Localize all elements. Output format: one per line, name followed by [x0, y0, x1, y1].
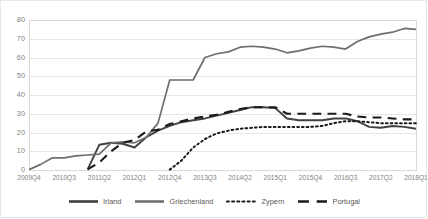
- y-axis-tick-label: 40: [1, 91, 25, 99]
- x-axis-tick-label: 2010Q3: [52, 173, 75, 182]
- legend-label: Griechenland: [169, 197, 213, 206]
- legend-label: Irland: [103, 197, 122, 206]
- y-axis-tick-label: 60: [1, 54, 25, 62]
- x-axis-tick-label: 2017Q2: [369, 173, 392, 182]
- legend-swatch-irland: [68, 197, 99, 206]
- y-axis-tick-label: 50: [1, 72, 25, 80]
- legend-item-griechenland[interactable]: Griechenland: [134, 197, 213, 206]
- x-axis-tick-label: 2018Q1: [404, 173, 427, 182]
- axis-line-baseline: [29, 170, 417, 171]
- x-axis-tick-label: 2012Q1: [123, 173, 146, 182]
- axis-line-left: [29, 20, 30, 171]
- y-axis-tick-label: 70: [1, 35, 25, 43]
- legend-label: Zypern: [261, 197, 284, 206]
- legend-swatch-zypern: [226, 197, 257, 206]
- y-axis-tick-label: 30: [1, 110, 25, 118]
- x-axis-tick-label: 2012Q4: [158, 173, 181, 182]
- y-axis-tick-label: 10: [1, 147, 25, 155]
- y-axis-tick-label: 20: [1, 129, 25, 137]
- x-axis-tick-label: 2009Q4: [17, 173, 40, 182]
- axis-line-right: [416, 20, 417, 171]
- line-chart: 01020304050607080 2009Q42010Q32011Q22012…: [0, 0, 428, 219]
- x-axis-tick-label: 2016Q3: [334, 173, 357, 182]
- legend-item-irland[interactable]: Irland: [68, 197, 122, 206]
- x-axis-tick-label: 2015Q4: [299, 173, 322, 182]
- legend-item-zypern[interactable]: Zypern: [226, 197, 284, 206]
- gridline: [29, 114, 417, 115]
- legend-label: Portugal: [332, 197, 360, 206]
- gridline: [29, 39, 417, 40]
- x-axis-tick-label: 2014Q2: [228, 173, 251, 182]
- gridline: [29, 58, 417, 59]
- legend-item-portugal[interactable]: Portugal: [297, 197, 360, 206]
- x-axis-tick-label: 2013Q3: [193, 173, 216, 182]
- axis-line-top: [29, 20, 417, 21]
- gridline: [29, 151, 417, 152]
- x-axis-tick-label: 2011Q2: [88, 173, 111, 182]
- chart-border: [0, 0, 427, 218]
- gridline: [29, 95, 417, 96]
- gridline: [29, 133, 417, 134]
- legend-swatch-portugal: [297, 197, 328, 206]
- y-axis-tick-label: 80: [1, 16, 25, 24]
- gridline: [29, 76, 417, 77]
- x-axis-tick-label: 2015Q1: [264, 173, 287, 182]
- legend-swatch-griechenland: [134, 197, 165, 206]
- chart-legend: IrlandGriechenlandZypernPortugal: [0, 194, 428, 208]
